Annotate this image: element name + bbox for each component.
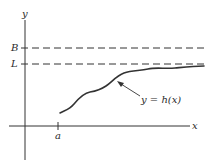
function-graph: y x B L a y = h(x): [0, 0, 205, 168]
curve-label: y = h(x): [140, 94, 181, 105]
arrowhead-icon: [117, 81, 124, 87]
tick-a-label: a: [55, 130, 61, 141]
line-b-label: B: [10, 42, 18, 53]
y-axis-label: y: [21, 8, 28, 19]
curve-h: [60, 66, 204, 113]
x-axis-label: x: [192, 120, 198, 131]
line-l-label: L: [10, 58, 18, 69]
callout-arrow-line: [121, 84, 140, 96]
